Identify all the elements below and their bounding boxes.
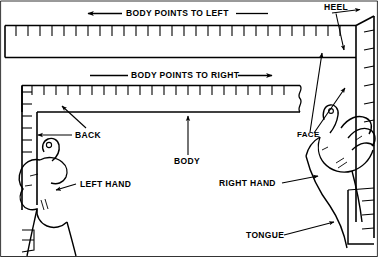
left-hand-illustration — [19, 138, 76, 256]
label-face: FACE — [297, 131, 320, 139]
figure-border — [1, 1, 378, 257]
leader-tongue — [284, 222, 334, 235]
lower-square-graduations — [32, 86, 284, 96]
top-square-body — [5, 26, 356, 58]
label-tongue: TONGUE — [246, 231, 284, 240]
right-tongue-graduations — [364, 30, 374, 122]
leader-face — [310, 53, 345, 133]
label-body: BODY — [174, 157, 200, 166]
label-left-hand: LEFT HAND — [80, 180, 131, 189]
left-tongue-graduations — [22, 92, 32, 152]
label-right-hand: RIGHT HAND — [219, 179, 276, 188]
label-heel: HEEL — [324, 3, 348, 12]
label-back: BACK — [75, 131, 101, 140]
diagram-artwork — [0, 0, 378, 258]
leader-left-hand — [56, 184, 76, 190]
top-square-graduations — [16, 26, 340, 37]
label-body-points-to-left: BODY POINTS TO LEFT — [126, 9, 229, 18]
framing-square-diagram: BODY POINTS TO LEFT BODY POINTS TO RIGHT… — [0, 0, 378, 258]
label-body-points-to-right: BODY POINTS TO RIGHT — [131, 71, 239, 80]
tongue-graduations — [362, 200, 374, 229]
